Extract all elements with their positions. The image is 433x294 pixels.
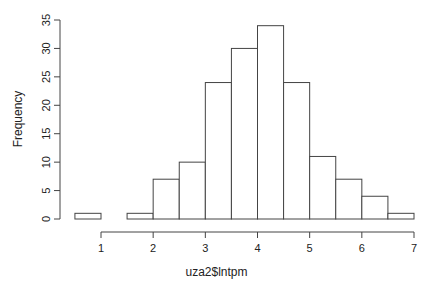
x-tick-label: 7 bbox=[411, 242, 417, 254]
histogram-bar bbox=[336, 179, 362, 219]
histogram-bar bbox=[310, 156, 336, 219]
histogram-bar bbox=[179, 162, 205, 219]
histogram-bar bbox=[388, 213, 414, 219]
x-tick-label: 1 bbox=[98, 242, 104, 254]
y-tick-label: 5 bbox=[40, 188, 52, 194]
x-tick-label: 2 bbox=[150, 242, 156, 254]
y-tick-label: 35 bbox=[40, 14, 52, 26]
histogram-bar bbox=[231, 48, 257, 219]
histogram-bar bbox=[205, 83, 231, 219]
y-tick-label: 25 bbox=[40, 71, 52, 83]
histogram-bar bbox=[284, 83, 310, 219]
y-tick-label: 30 bbox=[40, 42, 52, 54]
histogram-bar bbox=[362, 196, 388, 219]
y-tick-label: 0 bbox=[40, 216, 52, 222]
histogram-bar bbox=[258, 26, 284, 219]
x-axis-label: uza2$lntpm bbox=[0, 265, 433, 279]
y-tick-label: 10 bbox=[40, 156, 52, 168]
y-tick-label: 15 bbox=[40, 128, 52, 140]
x-tick-label: 6 bbox=[359, 242, 365, 254]
x-tick-label: 5 bbox=[307, 242, 313, 254]
histogram-chart: 123456705101520253035 bbox=[0, 0, 433, 294]
x-tick-label: 4 bbox=[254, 242, 260, 254]
y-axis-label: Frequency bbox=[11, 79, 25, 159]
x-tick-label: 3 bbox=[202, 242, 208, 254]
histogram-bar bbox=[75, 213, 101, 219]
histogram-bar bbox=[127, 213, 153, 219]
y-tick-label: 20 bbox=[40, 99, 52, 111]
histogram-bar bbox=[153, 179, 179, 219]
